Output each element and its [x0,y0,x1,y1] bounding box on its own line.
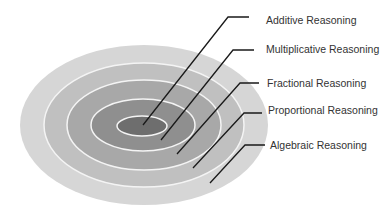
ring-additive [117,116,167,136]
label-algebraic: Algebraic Reasoning [270,139,367,151]
label-multiplicative: Multiplicative Reasoning [266,43,379,55]
diagram-canvas: Additive Reasoning Multiplicative Reason… [0,0,387,214]
label-fractional: Fractional Reasoning [267,77,366,89]
label-proportional: Proportional Reasoning [268,104,378,116]
reasoning-levels-diagram: Additive Reasoning Multiplicative Reason… [0,0,387,214]
labels: Additive Reasoning Multiplicative Reason… [266,14,379,151]
label-additive: Additive Reasoning [266,14,357,26]
concentric-ellipses [20,45,268,205]
